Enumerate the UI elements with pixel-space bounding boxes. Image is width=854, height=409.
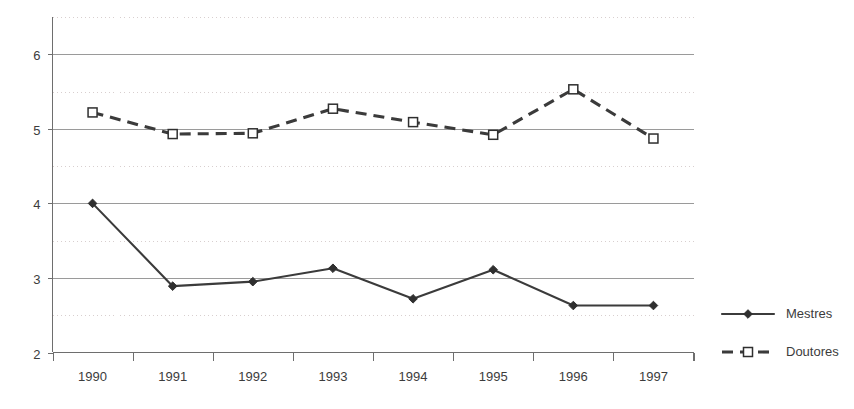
x-tick-label: 1991 <box>158 369 187 384</box>
y-tick-label: 3 <box>33 272 40 287</box>
x-axis: 19901991199219931994199519961997 <box>53 353 695 384</box>
minor-gridlines <box>53 18 694 316</box>
y-axis-ticks <box>48 55 53 354</box>
y-tick-label: 5 <box>33 123 40 138</box>
y-axis-tick-labels: 23456 <box>33 48 40 362</box>
x-tick-label: 1994 <box>399 369 428 384</box>
legend-item-doutores[interactable]: Doutores <box>722 344 839 359</box>
data-point-marker <box>409 118 418 127</box>
chart-legend: MestresDoutores <box>722 306 839 359</box>
legend-label: Mestres <box>786 306 833 321</box>
y-tick-label: 6 <box>33 48 40 63</box>
data-point-marker <box>248 129 257 138</box>
legend-marker-sample <box>744 348 753 357</box>
legend-label: Doutores <box>786 344 839 359</box>
series-layer <box>88 85 658 310</box>
data-point-marker <box>649 301 658 310</box>
series-doutores <box>88 85 658 143</box>
y-tick-label: 2 <box>33 347 40 362</box>
y-axis: 23456 <box>33 17 52 362</box>
y-tick-label: 4 <box>33 197 40 212</box>
data-point-marker <box>329 264 338 273</box>
x-axis-tick-labels: 19901991199219931994199519961997 <box>78 369 668 384</box>
data-point-marker <box>88 108 97 117</box>
chart-canvas: 23456 19901991199219931994199519961997 M… <box>0 0 854 409</box>
data-point-marker <box>168 130 177 139</box>
legend-marker-sample <box>744 310 753 319</box>
x-tick-label: 1995 <box>479 369 508 384</box>
data-point-marker <box>409 295 418 304</box>
data-point-marker <box>489 130 498 139</box>
data-point-marker <box>569 301 578 310</box>
x-axis-ticks <box>54 353 695 361</box>
data-point-marker <box>569 85 578 94</box>
x-tick-label: 1993 <box>318 369 347 384</box>
x-tick-label: 1996 <box>559 369 588 384</box>
series-mestres <box>88 199 657 310</box>
line-chart: 23456 19901991199219931994199519961997 M… <box>0 0 854 409</box>
legend-item-mestres[interactable]: Mestres <box>722 306 833 321</box>
series-line <box>93 203 654 305</box>
data-point-marker <box>489 265 498 274</box>
data-point-marker <box>649 134 658 143</box>
x-tick-label: 1997 <box>639 369 668 384</box>
x-tick-label: 1990 <box>78 369 107 384</box>
x-tick-label: 1992 <box>238 369 267 384</box>
data-point-marker <box>328 104 337 113</box>
